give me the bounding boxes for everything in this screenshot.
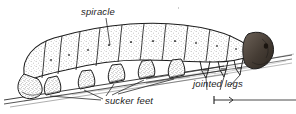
label-spiracle: spiracle: [81, 6, 115, 17]
label-sucker-feet: sucker feet: [105, 95, 153, 106]
head: [243, 32, 274, 69]
caterpillar-figure: spiracle sucker feet jointed legs: [0, 0, 296, 114]
spiracle-dot: [87, 49, 89, 51]
spiracle-dot: [235, 48, 237, 50]
sucker-foot: [44, 76, 61, 95]
sucker-foot: [78, 70, 95, 89]
sucker-foot: [138, 60, 155, 79]
label-jointed-legs: jointed legs: [193, 78, 243, 89]
head-eye: [264, 43, 268, 49]
scale-arrow: [214, 96, 296, 104]
sucker-foot: [168, 59, 185, 78]
spiracle-dot: [50, 59, 52, 61]
spiracle-dot: [68, 54, 70, 56]
spiracle-dot: [152, 40, 154, 42]
spiracle-dot: [195, 42, 197, 44]
jointed-leg: [234, 59, 243, 75]
spiracle-dot: [216, 45, 218, 47]
leader-sucker-foot: [50, 96, 101, 100]
sucker-foot: [108, 64, 125, 83]
spiracle-dot: [130, 41, 132, 43]
spiracle-dot: [174, 40, 176, 42]
